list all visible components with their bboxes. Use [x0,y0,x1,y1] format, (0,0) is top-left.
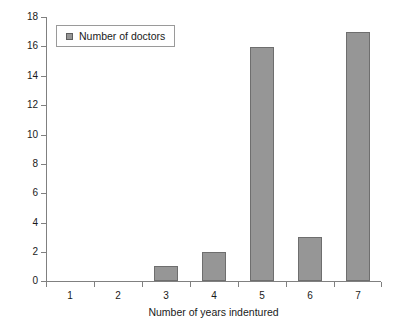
y-axis-tick-label: 6 [14,188,38,198]
bar-category-7 [346,32,370,281]
x-axis-title: Number of years indentured [46,306,381,319]
y-axis-tick [41,193,46,194]
x-axis-tick-label: 7 [338,290,378,302]
bar-chart: 18 16 14 12 10 8 6 4 2 0 1 2 3 4 5 6 7 N… [0,0,398,329]
x-axis-tick [142,282,143,287]
y-axis-tick [41,164,46,165]
x-axis-tick [238,282,239,287]
y-axis-tick [41,105,46,106]
x-axis-tick-label: 1 [50,290,90,302]
y-axis-tick-label: 12 [14,100,38,110]
x-axis-tick [381,282,382,287]
y-axis-tick-label: 10 [14,130,38,140]
bar-category-3 [154,266,178,281]
y-axis-line [46,17,47,282]
legend-swatch-icon [66,33,73,40]
y-axis-tick [41,252,46,253]
y-axis-tick-label: 14 [14,71,38,81]
x-axis-tick [46,282,47,287]
x-axis-tick-label: 5 [242,290,282,302]
bar-category-5 [250,47,274,281]
bar-category-6 [298,237,322,281]
y-axis-tick-label: 0 [14,276,38,286]
chart-legend: Number of doctors [56,25,175,47]
x-axis-tick [94,282,95,287]
y-axis-tick-label: 4 [14,218,38,228]
x-axis-line [46,281,381,282]
x-axis-tick [190,282,191,287]
y-axis-tick [41,46,46,47]
x-axis-tick [286,282,287,287]
y-axis-tick [41,76,46,77]
x-axis-tick-label: 2 [98,290,138,302]
x-axis-tick-label: 4 [194,290,234,302]
x-axis-tick [334,282,335,287]
y-axis-tick [41,135,46,136]
y-axis-tick-label: 8 [14,159,38,169]
y-axis-tick-label: 2 [14,247,38,257]
y-axis-tick-label: 16 [14,41,38,51]
bar-category-4 [202,252,226,281]
x-axis-tick-label: 6 [290,290,330,302]
y-axis-tick [41,17,46,18]
y-axis-tick-label: 18 [14,12,38,22]
x-axis-tick-label: 3 [146,290,186,302]
y-axis-tick [41,223,46,224]
legend-label: Number of doctors [79,30,165,42]
